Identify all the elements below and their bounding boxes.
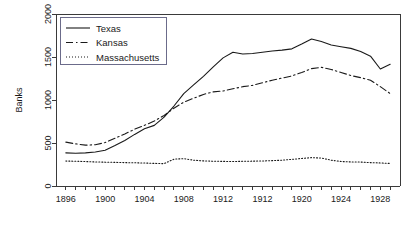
legend-label-kansas: Kansas (96, 37, 128, 48)
chart-figure: 0500100015002000 Banks 18961900190419081… (0, 0, 419, 232)
x-tick-label: 1920 (292, 194, 312, 204)
chart-legend: TexasKansasMassachusetts (60, 17, 166, 64)
series-line-massachusetts (66, 158, 390, 164)
x-tick-label: 1896 (56, 194, 76, 204)
y-axis-ticks: 0500100015002000 (43, 4, 56, 189)
x-tick-label: 1912 (213, 194, 233, 204)
series-line-kansas (66, 67, 390, 145)
y-axis: 0500100015002000 Banks (14, 4, 56, 189)
x-tick-label: 1928 (370, 194, 390, 204)
y-tick-label: 1500 (43, 47, 53, 67)
legend-label-texas: Texas (96, 23, 121, 34)
y-tick-label: 0 (43, 183, 53, 188)
y-tick-label: 1000 (43, 90, 53, 110)
x-tick-label: 1924 (331, 194, 351, 204)
x-axis: 189619001904190819121912192019241928 (56, 186, 400, 204)
x-tick-label: 1912 (252, 194, 272, 204)
x-tick-label: 1908 (174, 194, 194, 204)
legend-label-massachusetts: Massachusetts (96, 52, 160, 63)
y-tick-label: 2000 (43, 4, 53, 24)
x-tick-label: 1900 (95, 194, 115, 204)
y-tick-label: 500 (43, 135, 53, 150)
x-tick-label: 1904 (134, 194, 154, 204)
y-axis-title: Banks (14, 87, 24, 113)
line-chart: 0500100015002000 Banks 18961900190419081… (0, 0, 419, 232)
x-axis-ticks: 189619001904190819121912192019241928 (56, 186, 391, 204)
